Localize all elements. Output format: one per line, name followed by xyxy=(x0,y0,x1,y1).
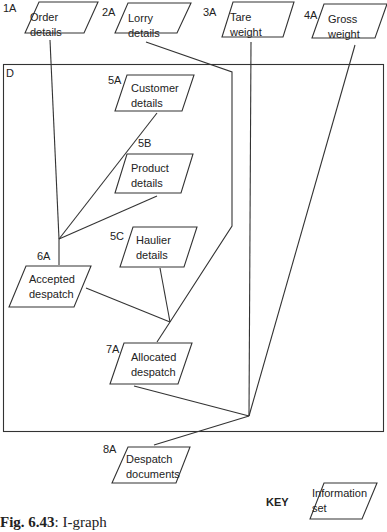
node-8a-despatch-documents: Despatchdocuments xyxy=(126,452,180,482)
key-label: KEY xyxy=(266,496,289,508)
node-id-5a: 5A xyxy=(108,74,121,86)
node-id-1a: 1A xyxy=(3,2,16,14)
node-id-8a: 8A xyxy=(103,443,116,455)
node-id-7a: 7A xyxy=(106,343,119,355)
node-3a-tare-weight: Tareweight xyxy=(230,10,262,40)
node-7a-allocated-despatch: Allocateddespatch xyxy=(131,350,176,380)
node-6a-accepted-despatch: Accepteddespatch xyxy=(29,272,75,302)
boundary-label: D xyxy=(6,67,14,79)
node-1a-order-details: Orderdetails xyxy=(30,10,62,40)
figure-caption: Fig. 6.43: I-graph xyxy=(0,514,107,531)
node-5b-product-details: Productdetails xyxy=(131,161,169,191)
node-id-2a: 2A xyxy=(102,6,115,18)
key-information-set: Informationset xyxy=(312,486,367,516)
node-id-6a: 6A xyxy=(37,250,50,262)
node-5c-haulier-details: Haulierdetails xyxy=(136,233,171,263)
node-4a-gross-weight: Grossweight xyxy=(328,12,360,42)
node-id-5b: 5B xyxy=(138,137,151,149)
boundary-d xyxy=(4,65,384,432)
node-2a-lorry-details: Lorrydetails xyxy=(128,11,160,41)
node-id-3a: 3A xyxy=(203,6,216,18)
diagram-lines xyxy=(0,0,387,532)
node-5a-customer-details: Customerdetails xyxy=(131,81,179,111)
node-id-4a: 4A xyxy=(304,9,317,21)
node-id-5c: 5C xyxy=(110,230,124,242)
